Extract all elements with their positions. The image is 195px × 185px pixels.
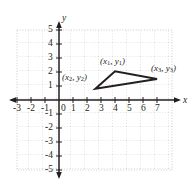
vertex-label-2-close: ) <box>84 72 87 82</box>
vertex-label-3-mid: , y <box>161 63 170 73</box>
y-tick-label-5: 5 <box>48 25 53 35</box>
x-tick-label-3: 3 <box>99 104 104 114</box>
y-tick-label-minus1: -1 <box>45 109 53 119</box>
y-tick-label-minus5: -5 <box>45 165 53 175</box>
x-tick-label-4: 4 <box>113 104 118 114</box>
y-tick-label-2: 2 <box>48 67 53 77</box>
x-tick-label-1: 1 <box>71 104 76 114</box>
vertex-label-1-close: ) <box>122 56 125 66</box>
x-axis-name: x <box>183 96 187 106</box>
vertex-label-3-close: ) <box>173 63 176 73</box>
x-tick-label-2: 2 <box>85 104 90 114</box>
vertex-label-1: (x1, y1) <box>100 57 125 67</box>
vertex-label-2-open: (x <box>62 72 69 82</box>
y-tick-label-minus3: -3 <box>45 137 53 147</box>
vertex-label-2: (x2, y2) <box>62 73 87 83</box>
plot-canvas <box>0 0 195 185</box>
vertex-label-1-mid: , y <box>110 56 119 66</box>
y-tick-label-1: 1 <box>48 81 53 91</box>
vertex-label-3: (x3, y3) <box>151 64 176 74</box>
y-tick-label-4: 4 <box>48 39 53 49</box>
x-tick-label-minus3: -3 <box>13 104 21 114</box>
x-tick-label-6: 6 <box>141 104 146 114</box>
x-tick-label-minus2: -2 <box>27 104 35 114</box>
vertex-label-1-open: (x <box>100 56 107 66</box>
y-tick-label-3: 3 <box>48 53 53 63</box>
y-tick-label-minus2: -2 <box>45 123 53 133</box>
vertex-label-2-mid: , y <box>72 72 81 82</box>
x-tick-label-7: 7 <box>155 104 160 114</box>
coordinate-plane-figure: -3 -2 -1 0 1 2 3 4 5 6 7 5 4 3 2 1 -1 -2… <box>0 0 195 185</box>
origin-label: 0 <box>61 104 66 114</box>
vertex-label-3-open: (x <box>151 63 158 73</box>
x-tick-label-5: 5 <box>127 104 132 114</box>
y-tick-label-minus4: -4 <box>45 151 53 161</box>
y-axis-name: y <box>62 14 66 24</box>
